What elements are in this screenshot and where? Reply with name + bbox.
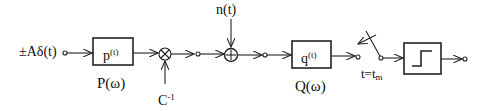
block-diagram: ±Aδ(t) p(t) P(ω) C-1 n(t) q(t) Q(ω) t=tm [0, 0, 491, 111]
diagram-lines [0, 0, 491, 111]
switch-terminal-icon [356, 55, 360, 59]
p-block-label: p(t) [103, 45, 119, 63]
node-terminal-icon [196, 52, 200, 56]
p-block-caption: P(ω) [97, 76, 125, 90]
p-block-main: p [103, 48, 110, 63]
q-block-main: q [301, 51, 308, 66]
q-block-sup: (t) [308, 50, 317, 60]
step-function-icon [412, 51, 432, 66]
output-terminal-icon [463, 57, 467, 61]
threshold-block-box [404, 43, 441, 74]
switch-label-sub: m [376, 72, 383, 82]
input-terminal-icon [63, 51, 67, 55]
c-exponent: -1 [167, 92, 175, 102]
switch-label: t=tm [361, 67, 383, 84]
noise-label: n(t) [216, 3, 236, 17]
q-block-label: q(t) [301, 48, 317, 66]
input-label: ±Aδ(t) [19, 45, 57, 59]
switch-arm-icon [366, 31, 381, 58]
node-terminal-icon [263, 53, 267, 57]
q-block-caption: Q(ω) [295, 79, 326, 93]
c-label: C [158, 93, 167, 108]
switch-label-main: t=t [361, 66, 376, 81]
p-block-sup: (t) [110, 47, 119, 57]
multiplier-input-label: C-1 [158, 90, 175, 108]
